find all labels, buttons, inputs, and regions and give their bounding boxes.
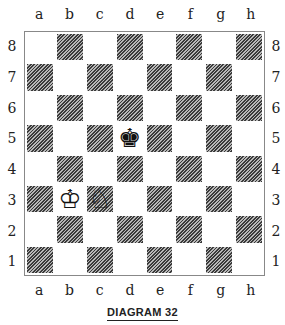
square-g3 — [206, 186, 232, 212]
file-label: g — [206, 282, 236, 298]
file-label: c — [85, 282, 115, 298]
square-a6 — [25, 93, 55, 123]
file-label: g — [206, 6, 236, 22]
square-f2 — [176, 216, 202, 242]
rank-label: 2 — [5, 216, 19, 247]
rank-label: 8 — [5, 31, 19, 62]
rank-label: 1 — [5, 246, 19, 277]
rank-label: 7 — [269, 62, 283, 93]
square-f4 — [176, 156, 202, 182]
square-b4 — [57, 156, 83, 182]
square-c1 — [87, 247, 113, 273]
square-b5 — [55, 123, 85, 153]
square-d1 — [115, 245, 145, 275]
file-label: e — [145, 6, 175, 22]
square-g7 — [206, 64, 232, 90]
square-f6 — [176, 95, 202, 121]
white-king-icon: ♔ — [58, 186, 81, 212]
square-f3 — [174, 184, 204, 214]
square-c5 — [87, 125, 113, 151]
square-b8 — [57, 34, 83, 60]
square-h6 — [236, 95, 262, 121]
square-e1 — [147, 247, 173, 273]
square-b3: ♔ — [55, 184, 85, 214]
black-king-icon: ♚ — [118, 125, 141, 151]
square-h5 — [234, 123, 264, 153]
file-label: d — [115, 282, 145, 298]
square-e5 — [147, 125, 173, 151]
file-labels-bottom: a b c d e f g h — [24, 282, 266, 298]
square-b6 — [57, 95, 83, 121]
square-d7 — [115, 62, 145, 92]
square-h4 — [236, 156, 262, 182]
chess-board: ♚♔♘ — [24, 31, 265, 276]
rank-label: 1 — [269, 246, 283, 277]
square-d2 — [117, 216, 143, 242]
square-g6 — [204, 93, 234, 123]
file-label: f — [175, 6, 205, 22]
caption-text: DIAGRAM 32 — [107, 306, 178, 321]
file-label: b — [54, 282, 84, 298]
square-g4 — [204, 154, 234, 184]
square-g5 — [206, 125, 232, 151]
square-d3 — [115, 184, 145, 214]
square-a2 — [25, 214, 55, 244]
square-h7 — [234, 62, 264, 92]
rank-label: 2 — [269, 216, 283, 247]
file-label: h — [236, 282, 266, 298]
square-c6 — [85, 93, 115, 123]
file-label: d — [115, 6, 145, 22]
square-e8 — [145, 32, 175, 62]
square-c4 — [85, 154, 115, 184]
square-e4 — [145, 154, 175, 184]
square-a7 — [27, 64, 53, 90]
square-g8 — [204, 32, 234, 62]
square-g2 — [204, 214, 234, 244]
square-e2 — [145, 214, 175, 244]
square-h3 — [234, 184, 264, 214]
diagram-caption: DIAGRAM 32 — [0, 301, 285, 320]
square-g1 — [206, 247, 232, 273]
square-a1 — [27, 247, 53, 273]
square-c2 — [85, 214, 115, 244]
rank-labels-right: 8 7 6 5 4 3 2 1 — [269, 31, 283, 277]
square-b7 — [55, 62, 85, 92]
square-h8 — [236, 34, 262, 60]
rank-label: 5 — [269, 123, 283, 154]
square-f7 — [174, 62, 204, 92]
file-label: e — [145, 282, 175, 298]
square-c8 — [85, 32, 115, 62]
square-c7 — [87, 64, 113, 90]
rank-label: 4 — [5, 154, 19, 185]
rank-label: 6 — [5, 93, 19, 124]
square-d4 — [117, 156, 143, 182]
rank-label: 3 — [269, 185, 283, 216]
rank-label: 5 — [5, 123, 19, 154]
white-knight-icon: ♘ — [88, 186, 111, 212]
square-e3 — [147, 186, 173, 212]
square-h2 — [236, 216, 262, 242]
square-a3 — [27, 186, 53, 212]
square-f1 — [174, 245, 204, 275]
rank-label: 8 — [269, 31, 283, 62]
rank-label: 4 — [269, 154, 283, 185]
square-c3: ♘ — [87, 186, 113, 212]
square-a4 — [25, 154, 55, 184]
square-e7 — [147, 64, 173, 90]
file-label: b — [54, 6, 84, 22]
file-labels-top: a b c d e f g h — [24, 6, 266, 22]
file-label: a — [24, 282, 54, 298]
rank-label: 7 — [5, 62, 19, 93]
rank-labels-left: 8 7 6 5 4 3 2 1 — [5, 31, 19, 277]
square-a5 — [27, 125, 53, 151]
square-b1 — [55, 245, 85, 275]
file-label: h — [236, 6, 266, 22]
square-b2 — [57, 216, 83, 242]
file-label: a — [24, 6, 54, 22]
file-label: c — [85, 6, 115, 22]
square-f8 — [176, 34, 202, 60]
square-d8 — [117, 34, 143, 60]
square-d5: ♚ — [115, 123, 145, 153]
rank-label: 6 — [269, 93, 283, 124]
square-a8 — [25, 32, 55, 62]
